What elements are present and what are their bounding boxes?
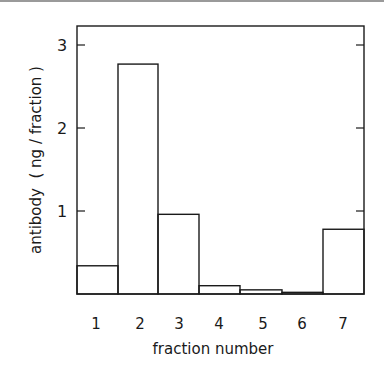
bar-fraction-3 (158, 214, 199, 294)
x-tick-label: 4 (214, 315, 224, 333)
bar-chart: 123 1234567 fraction number antibody ( n… (0, 0, 384, 369)
x-tick-label: 5 (258, 315, 268, 333)
y-axis-ticks: 123 (57, 36, 364, 221)
x-tick-label: 3 (174, 315, 184, 333)
x-tick-label: 2 (135, 315, 145, 333)
y-axis-label: antibody ( ng / fraction ) (27, 66, 45, 254)
bar-fraction-2 (118, 64, 158, 294)
bar-fraction-1 (77, 266, 118, 294)
x-axis-label: fraction number (153, 340, 275, 358)
plot-frame (77, 26, 364, 294)
x-tick-label: 1 (91, 315, 101, 333)
bars-group (77, 64, 364, 294)
bar-fraction-7 (323, 229, 364, 294)
y-tick-label: 2 (57, 119, 67, 138)
y-tick-label: 1 (57, 202, 67, 221)
x-tick-label: 7 (338, 315, 348, 333)
x-axis-tick-labels: 1234567 (91, 315, 348, 333)
bar-fraction-4 (199, 286, 240, 294)
y-tick-label: 3 (57, 36, 67, 55)
x-tick-label: 6 (297, 315, 307, 333)
